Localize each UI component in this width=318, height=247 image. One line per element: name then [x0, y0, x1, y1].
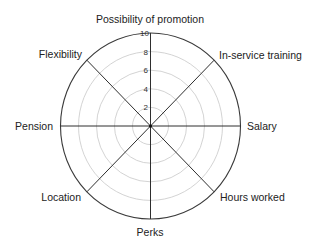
center-point	[149, 124, 152, 127]
radar-chart: 2 4 6 8 10 Possibility of promotion In-s…	[0, 0, 318, 247]
label-location: Location	[41, 191, 81, 203]
label-in-service-training: In-service training	[219, 49, 302, 61]
spoke-flexibility	[87, 60, 151, 126]
label-perks: Perks	[137, 226, 164, 238]
tick-2: 2	[144, 103, 149, 112]
spoke-location	[87, 126, 151, 192]
spoke-training	[151, 60, 215, 126]
tick-4: 4	[144, 85, 149, 94]
label-salary: Salary	[247, 120, 278, 132]
label-possibility-of-promotion: Possibility of promotion	[96, 13, 204, 25]
label-flexibility: Flexibility	[39, 48, 83, 60]
tick-8: 8	[144, 48, 149, 57]
tick-10: 10	[140, 29, 149, 38]
tick-6: 6	[144, 66, 149, 75]
label-pension: Pension	[15, 120, 53, 132]
spoke-hours	[151, 126, 215, 192]
label-hours-worked: Hours worked	[220, 191, 285, 203]
